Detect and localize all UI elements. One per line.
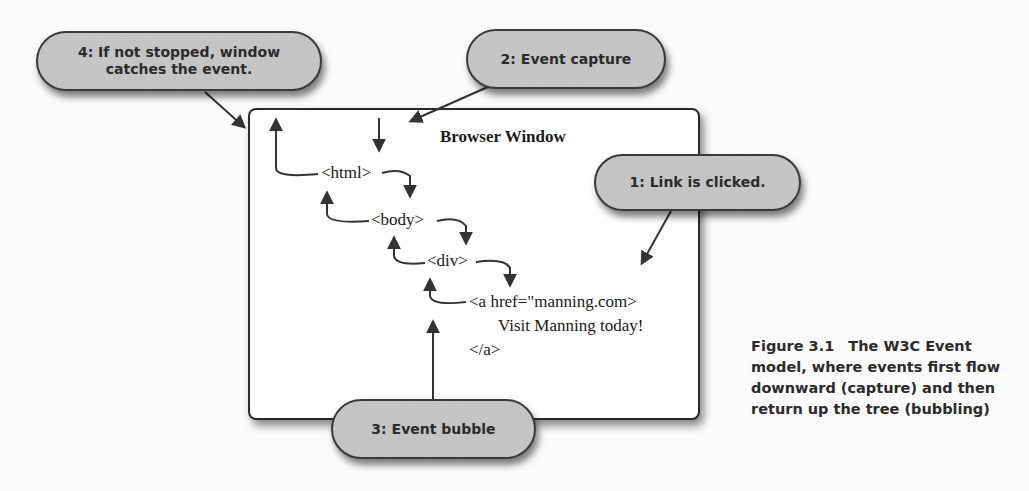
w3c-event-model-figure: Browser Window <html> <body> <div> <a hr…	[0, 0, 1029, 491]
callout-step-3-label: 3: Event bubble	[371, 421, 495, 438]
bubble-arrow-html-to-window	[276, 120, 318, 175]
callout-step-2-label: 2: Event capture	[501, 51, 632, 68]
capture-arrow-div-to-anchor	[476, 261, 510, 285]
callout-step-1-label: 1: Link is clicked.	[629, 174, 765, 191]
callout2-pointer-arrow	[411, 86, 490, 121]
figure-caption: Figure 3.1The W3C Event model, where eve…	[751, 336, 1011, 420]
callout-step-4-line2: catches the event.	[78, 61, 280, 78]
figure-number: Figure 3.1	[751, 338, 834, 354]
capture-arrow-html-to-body	[382, 171, 410, 196]
callout-step-1: 1: Link is clicked.	[594, 154, 801, 211]
callout-step-2: 2: Event capture	[466, 29, 666, 89]
capture-arrow-body-to-div	[437, 219, 466, 243]
callout1-pointer-arrow	[642, 211, 671, 263]
callout-step-3: 3: Event bubble	[331, 399, 536, 459]
bubble-arrow-anchor-to-div	[430, 280, 466, 303]
bubble-arrow-div-to-body	[394, 238, 425, 264]
callout4-pointer-arrow	[205, 92, 244, 127]
bubble-arrow-body-to-html	[327, 193, 369, 222]
callout-step-4-line1: 4: If not stopped, window	[78, 44, 280, 61]
callout-step-4: 4: If not stopped, window catches the ev…	[36, 31, 322, 91]
